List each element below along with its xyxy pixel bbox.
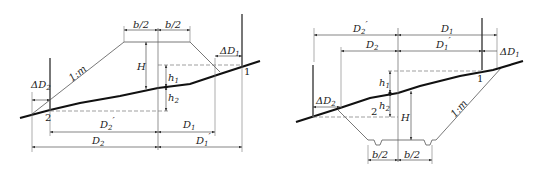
label-slope: 1:m	[66, 63, 88, 84]
label-delta-d2: ΔD2	[30, 79, 51, 92]
label-delta-d2: ΔD2	[315, 95, 336, 108]
label-b-half-left: b/2	[372, 149, 388, 160]
label-d1: D1	[182, 119, 196, 132]
cutting-figure: D2′ D1 D2 D1′ ΔD1 ΔD2 h1 h2 2 1 H 1:m b/…	[296, 18, 523, 164]
diagram-canvas: b/2 b/2 H h1 h2 1:m ΔD2 ΔD1 1 2 D2′ D2 D…	[0, 0, 540, 171]
point-1-label: 1	[244, 66, 250, 77]
label-height: H	[136, 61, 146, 72]
label-d2: D2	[91, 135, 105, 148]
label-b-half-left: b/2	[133, 19, 149, 30]
label-h2: h2	[168, 92, 179, 105]
label-height: H	[400, 112, 410, 123]
embankment-figure: b/2 b/2 H h1 h2 1:m ΔD2 ΔD1 1 2 D2′ D2 D…	[20, 14, 260, 152]
point-2-label: 2	[45, 112, 51, 123]
label-b-half-right: b/2	[165, 19, 181, 30]
point-2-label: 2	[371, 106, 377, 117]
label-d1-prime: D1′	[195, 131, 212, 148]
embankment-outline	[32, 42, 220, 114]
label-slope: 1:m	[448, 98, 469, 120]
label-b-half-right: b/2	[404, 149, 420, 160]
label-h1: h1	[168, 72, 179, 85]
label-h1: h1	[379, 77, 390, 90]
point-1-label: 1	[477, 73, 483, 84]
label-d2: D2	[365, 39, 379, 52]
label-d1-prime: D1′	[435, 35, 452, 52]
label-d2-prime: D2′	[99, 115, 116, 132]
label-d1: D1	[440, 23, 454, 36]
label-h2: h2	[379, 100, 390, 113]
label-d2-prime: D2′	[352, 19, 369, 36]
label-delta-d1: ΔD1	[499, 46, 520, 59]
